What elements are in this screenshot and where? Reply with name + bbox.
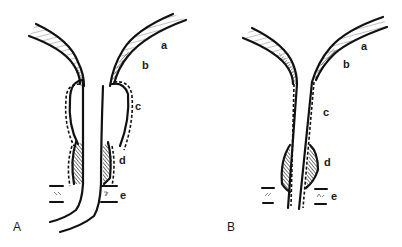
panel-b-label-d: d <box>324 157 331 168</box>
panel-b-label-b: b <box>343 59 350 70</box>
panel-a-label-a: a <box>161 40 167 51</box>
panel-a-label-e: e <box>120 190 126 201</box>
panel-b-label-c: c <box>323 107 329 118</box>
panel-a-layer-d <box>68 142 114 186</box>
panel-b-title: B <box>227 221 235 233</box>
panel-a-layer-c <box>66 80 133 150</box>
figure: a b c d e A a b c d e B <box>0 0 402 247</box>
panel-b-left-wall <box>243 28 297 84</box>
panel-b-label-e: e <box>331 191 337 202</box>
panel-b-right-wall <box>312 17 387 82</box>
panel-b-label-a: a <box>361 41 367 52</box>
panel-b-layer-d <box>282 145 318 192</box>
panel-a-label-b: b <box>142 60 149 71</box>
panel-b-layer-e <box>262 188 327 204</box>
panel-a-title: A <box>13 221 21 233</box>
panel-a-label-c: c <box>135 101 141 112</box>
diagram-canvas <box>0 0 402 247</box>
panel-a-left-wall <box>29 24 84 86</box>
panel-a-label-d: d <box>119 155 126 166</box>
panel-a-right-wall <box>110 14 186 86</box>
